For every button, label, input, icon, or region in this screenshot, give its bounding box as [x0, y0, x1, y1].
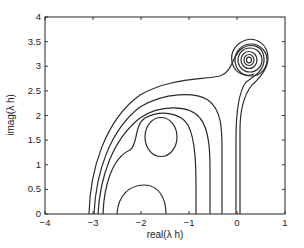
- contour-inner-oval: [145, 118, 177, 157]
- contour-lines: [89, 39, 268, 214]
- y-tick-label: 3.5: [28, 36, 41, 47]
- contour-outer-4: [103, 113, 196, 214]
- contour-outer-2: [94, 95, 222, 214]
- y-axis-label: imag(λ h): [5, 94, 16, 136]
- x-tick-label: −3: [88, 217, 99, 228]
- y-tick-label: 0.5: [28, 183, 41, 194]
- contour-outer-3: [98, 108, 210, 214]
- x-tick-label: 0: [234, 217, 239, 228]
- x-tick-label: −1: [184, 217, 195, 228]
- contour-peak-ring-5: [247, 57, 252, 63]
- contour-peak-ring-4: [244, 55, 254, 66]
- contour-bottom-bump: [117, 185, 166, 214]
- y-tick-label: 2.5: [28, 85, 41, 96]
- y-tick-label: 0: [36, 208, 41, 219]
- x-axis-label: real(λ h): [147, 229, 184, 240]
- x-tick-label: −2: [136, 217, 147, 228]
- x-tick-label: −4: [40, 217, 51, 228]
- contour-plot: −4 −3 −2 −1 0 1 real(λ h) 0 0.5 1 1.5 2 …: [0, 0, 304, 248]
- y-tick-label: 3: [36, 60, 41, 71]
- plot-frame: [45, 17, 285, 214]
- x-axis: −4 −3 −2 −1 0 1 real(λ h): [40, 17, 288, 240]
- x-tick-label: 1: [282, 217, 287, 228]
- y-tick-label: 1: [36, 159, 41, 170]
- y-tick-label: 1.5: [28, 134, 41, 145]
- y-tick-label: 2: [36, 110, 41, 121]
- y-tick-label: 4: [36, 11, 41, 22]
